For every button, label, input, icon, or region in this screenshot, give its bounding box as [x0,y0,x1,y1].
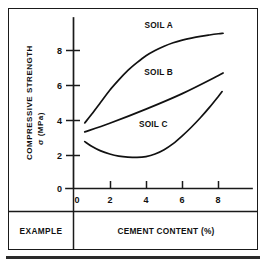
x-tick-label: 4 [143,195,148,205]
x-axis-title: CEMENT CONTENT (%) [117,226,214,236]
x-tick-label: 8 [215,195,220,205]
series-curve-soil-a [85,33,223,123]
chart-svg: 8 6 4 2 0 0 2 4 6 8 COMPRESSIVE STRENGTH… [0,0,266,264]
y-tick-label: 8 [57,46,62,56]
y-tick-label: 4 [57,116,62,126]
y-tick-label: 0 [57,184,62,194]
y-axis-title: COMPRESSIVE STRENGTH [25,45,34,160]
x-tick-label: 2 [107,195,112,205]
example-label: EXAMPLE [20,226,63,236]
series-label-soil-a: SOIL A [144,20,172,30]
y-tick-label: 2 [57,151,62,161]
x-axis-tick-labels: 0 2 4 6 8 [74,195,220,205]
x-tick-label: 0 [74,195,79,205]
y-axis-unit-label: σ (MPa) [36,112,45,145]
series-label-soil-b: SOIL B [144,67,173,77]
figure-root: 8 6 4 2 0 0 2 4 6 8 COMPRESSIVE STRENGTH… [0,0,266,264]
x-tick-label: 6 [179,195,184,205]
series-label-soil-c: SOIL C [139,119,168,129]
y-tick-label: 6 [57,81,62,91]
y-axis-tick-labels: 8 6 4 2 0 [57,46,62,194]
